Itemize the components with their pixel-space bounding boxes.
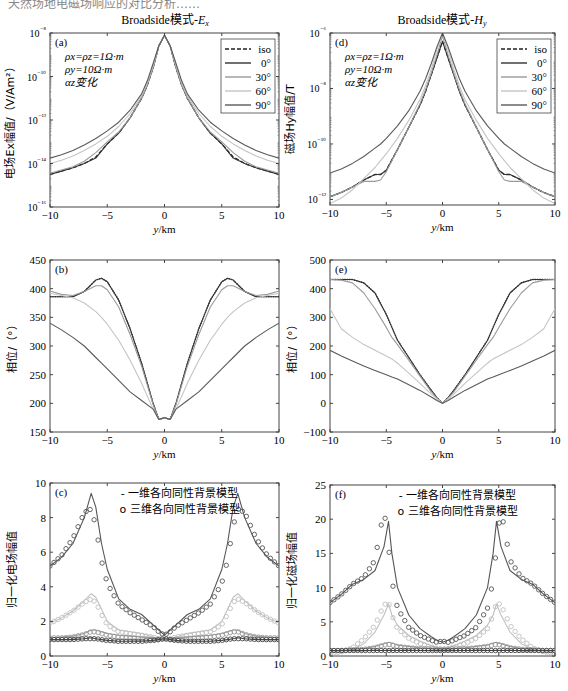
- panel-label: (d): [335, 36, 348, 49]
- x-axis-label: y/km: [430, 448, 453, 460]
- legend-entry: 0°: [537, 57, 547, 69]
- y-tick-label: 300: [30, 340, 47, 352]
- y-tick-label: 10⁻¹⁰: [307, 137, 326, 150]
- y-tick-label: 6: [41, 546, 47, 558]
- parameter-annotation: ρx=ρz=1Ω·m: [64, 50, 124, 62]
- parameter-annotation: αz变化: [345, 76, 379, 88]
- legend-entry: 0°: [261, 57, 271, 69]
- column-title-left: Broadside模式-Ex: [121, 13, 209, 28]
- y-axis-label: 归一化电场幅值: [5, 531, 19, 608]
- legend-entry: 60°: [532, 85, 547, 97]
- x-tick-label: 0: [162, 658, 168, 670]
- legend-entry: 30°: [532, 71, 547, 83]
- parameter-annotation: ρx=ρz=1Ω·m: [344, 50, 404, 62]
- x-tick-label: 0: [440, 434, 446, 446]
- x-tick-label: 5: [496, 658, 502, 670]
- x-tick-label: 5: [219, 434, 225, 446]
- plot-area: [330, 260, 555, 432]
- y-tick-label: 0: [321, 650, 327, 662]
- y-axis-label: 磁场Hy幅值/T: [283, 84, 297, 153]
- x-tick-label: −5: [101, 209, 113, 221]
- y-tick-label: 200: [30, 397, 47, 409]
- y-tick-label: 0: [321, 397, 327, 409]
- panel-label: (a): [55, 36, 68, 49]
- x-tick-label: −10: [41, 209, 59, 221]
- y-tick-label: 300: [310, 311, 327, 323]
- y-tick-label: 5: [321, 616, 327, 628]
- parameter-annotation: ρy=10Ω·m: [344, 63, 392, 75]
- x-tick-label: 10: [550, 434, 562, 446]
- legend-entry: o 三维各向同性背景模型: [397, 504, 517, 518]
- legend-entry: 90°: [256, 99, 271, 111]
- y-tick-label: 500: [310, 254, 327, 266]
- panel-b-ex-phase: −10−50510y/km450400350300250200150相位/（°）…: [5, 254, 285, 460]
- x-tick-label: −5: [380, 658, 392, 670]
- x-tick-label: −5: [101, 658, 113, 670]
- x-tick-label: 0: [440, 658, 446, 670]
- y-tick-label: 10⁻¹²: [28, 113, 46, 126]
- legend-entry: - 一维各向同性背景模型: [121, 486, 238, 500]
- x-tick-label: 5: [496, 434, 502, 446]
- y-tick-label: 10: [35, 477, 47, 489]
- legend-entry: o 三维各向同性背景模型: [119, 502, 239, 516]
- panel-a-ex-amplitude: −10−50510y/km10⁻⁸10⁻¹⁰10⁻¹²10⁻¹⁴10⁻¹⁶电场E…: [3, 26, 285, 235]
- panel-c-normalized-e: −10−50510y/km1086420归一化电场幅值(c)- 一维各向同性背景…: [5, 477, 285, 684]
- y-tick-label: 450: [30, 254, 47, 266]
- x-tick-label: 0: [162, 209, 168, 221]
- x-tick-label: 10: [274, 434, 286, 446]
- x-tick-label: 10: [550, 658, 562, 670]
- y-tick-label: 8: [41, 512, 47, 524]
- x-tick-label: 0: [440, 207, 446, 219]
- parameter-annotation: ρy=10Ω·m: [64, 63, 112, 75]
- y-axis-label: 电场Ex幅值/（V/Am²）: [3, 61, 17, 178]
- y-tick-label: 10⁻¹⁴: [27, 157, 46, 170]
- y-tick-label: 25: [315, 479, 327, 491]
- panel-e-hy-phase: −10−50510y/km5004003002001000−100相位/（°）(…: [285, 254, 561, 460]
- x-tick-label: 10: [274, 209, 286, 221]
- x-tick-label: 10: [550, 207, 562, 219]
- panel-d-hy-amplitude: −10−50510y/km10⁻⁶10⁻⁸10⁻¹⁰10⁻¹²磁场Hy幅值/T(…: [283, 26, 561, 233]
- x-tick-label: 5: [219, 209, 225, 221]
- y-axis-label: 相位/（°）: [5, 319, 19, 372]
- y-tick-label: 350: [30, 311, 47, 323]
- x-tick-label: −5: [380, 207, 392, 219]
- y-axis-label: 相位/（°）: [285, 319, 299, 372]
- panel-label: (f): [335, 488, 346, 501]
- legend-entry: 60°: [256, 85, 271, 97]
- y-tick-label: 10⁻¹²: [308, 192, 326, 205]
- legend-entry: iso: [258, 43, 271, 55]
- x-axis-label: y/km: [430, 672, 453, 684]
- y-tick-label: 10⁻⁸: [30, 26, 47, 39]
- legend-entry: iso: [534, 43, 547, 55]
- x-tick-label: 0: [162, 434, 168, 446]
- panel-f-normalized-h: −10−50510y/km2520151050归一化磁场幅值(f)- 一维各向同…: [285, 479, 561, 684]
- x-axis-label: y/km: [152, 672, 175, 684]
- y-tick-label: 200: [310, 340, 327, 352]
- legend-entry: 90°: [532, 99, 547, 111]
- y-tick-label: 150: [30, 426, 47, 438]
- y-tick-label: 2: [41, 615, 47, 627]
- y-tick-label: 250: [30, 369, 47, 381]
- x-axis-label: y/km: [152, 223, 175, 235]
- y-tick-label: 100: [310, 369, 327, 381]
- y-tick-label: 10⁻⁶: [310, 26, 327, 39]
- y-tick-label: 4: [41, 581, 47, 593]
- panel-label: (b): [55, 263, 68, 276]
- y-tick-label: 400: [310, 283, 327, 295]
- x-tick-label: 10: [274, 658, 286, 670]
- y-tick-label: 20: [315, 513, 327, 525]
- panel-label: (e): [335, 263, 348, 276]
- y-tick-label: 400: [30, 283, 47, 295]
- x-tick-label: 5: [496, 207, 502, 219]
- y-tick-label: 10: [315, 582, 327, 594]
- y-tick-label: 10⁻¹⁰: [27, 70, 46, 83]
- y-axis-label: 归一化磁场幅值: [285, 532, 299, 609]
- x-axis-label: y/km: [430, 221, 453, 233]
- x-tick-label: −5: [101, 434, 113, 446]
- svg-text:Broadside模式-Hy: Broadside模式-Hy: [398, 13, 487, 28]
- column-title-right: Broadside模式-Hy: [398, 13, 487, 28]
- x-tick-label: −10: [321, 207, 339, 219]
- y-tick-label: 15: [315, 547, 327, 559]
- x-tick-label: 5: [219, 658, 225, 670]
- x-tick-label: −5: [380, 434, 392, 446]
